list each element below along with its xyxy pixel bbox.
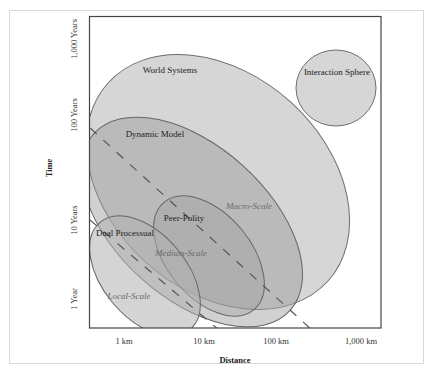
- y-tick-10years: 10 Years: [69, 205, 79, 234]
- label-dynamic-model: Dynamic Model: [126, 129, 185, 139]
- x-tick-100km: 100 km: [263, 336, 289, 346]
- y-tick-1year: 1 Year: [69, 288, 79, 310]
- label-medium-scale: Medium-Scale: [154, 248, 207, 258]
- x-tick-1000km: 1,000 km: [345, 336, 378, 346]
- y-tick-1000years: 1,000 Years: [69, 19, 79, 59]
- x-axis-label: Distance: [219, 355, 250, 365]
- region-interaction-sphere: [296, 50, 376, 126]
- label-peer-polity: Peer-Polity: [164, 213, 205, 223]
- label-dual-processual: Dual Processual: [96, 228, 155, 238]
- y-tick-100years: 100 Years: [69, 98, 79, 132]
- label-local-scale: Local-Scale: [107, 291, 151, 301]
- x-tick-10km: 10 km: [193, 336, 215, 346]
- y-axis-label: Time: [44, 158, 54, 177]
- scale-diagram-figure: World Systems Interaction Sphere Dynamic…: [0, 0, 436, 382]
- label-world-systems: World Systems: [143, 65, 198, 75]
- label-interaction-sphere: Interaction Sphere: [304, 67, 370, 77]
- label-macro-scale: Macro-Scale: [225, 201, 272, 211]
- x-tick-1km: 1 km: [115, 336, 133, 346]
